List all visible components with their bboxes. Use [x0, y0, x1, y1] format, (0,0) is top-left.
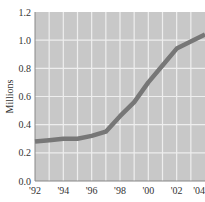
y-tick-label: 0.8 — [19, 63, 32, 74]
x-tick-label: '94 — [57, 185, 69, 196]
x-tick-label: '92 — [29, 185, 41, 196]
x-tick-label: '96 — [86, 185, 98, 196]
chart: 0.00.20.40.60.81.01.2 '92'94'96'98'00'02… — [0, 0, 205, 202]
x-tick-label: '00 — [142, 185, 154, 196]
x-tick-label: '98 — [114, 185, 126, 196]
y-tick-label: 1.2 — [19, 7, 32, 18]
y-tick-label: 0.6 — [19, 91, 32, 102]
y-axis-label: Millions — [4, 79, 15, 113]
y-tick-label: 1.0 — [19, 35, 32, 46]
y-axis-ticks: 0.00.20.40.60.81.01.2 — [19, 7, 32, 187]
x-tick-label: '04 — [193, 185, 205, 196]
y-tick-label: 0.2 — [19, 147, 32, 158]
y-tick-label: 0.4 — [19, 119, 32, 130]
x-axis-ticks: '92'94'96'98'00'02'04 — [29, 185, 205, 196]
x-tick-label: '02 — [171, 185, 183, 196]
